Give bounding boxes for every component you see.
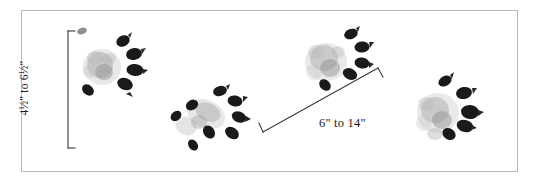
palm-pad-3 (305, 43, 347, 81)
track-hind-left (162, 84, 252, 156)
track-front-left (68, 24, 150, 102)
palm-pad-1 (83, 49, 121, 85)
track-hind-right (404, 68, 490, 150)
stride-measurement-label: 6" to 14" (317, 116, 368, 131)
track-diagram-figure: 4½" to 6½" 6" to 14" (0, 0, 539, 183)
height-measurement-label: 4½" to 6½" (18, 40, 30, 136)
track-front-right (292, 24, 380, 100)
